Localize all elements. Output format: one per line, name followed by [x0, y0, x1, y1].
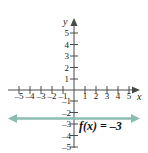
y-tick-label: –5 [62, 143, 71, 152]
function-equation-label: f(x) = –3 [79, 120, 122, 132]
line-left-arrow-icon [8, 114, 17, 123]
math-figure: –5 –4 –3 –2 –1 1 2 3 4 5 5 4 3 2 1 –1 –2… [0, 0, 148, 153]
y-axis-label: y [63, 17, 67, 27]
x-tick-label: –2 [48, 92, 57, 101]
y-tick-label: –1 [62, 97, 71, 106]
y-tick-label: 2 [65, 63, 70, 72]
x-tick-label: 5 [127, 92, 132, 101]
x-tick-label: 3 [105, 92, 110, 101]
y-axis-arrow-icon [70, 18, 77, 26]
x-axis-label: x [137, 92, 141, 102]
y-tick-label: 5 [65, 29, 70, 38]
y-tick-label: –2 [62, 108, 71, 117]
x-tick-label: 4 [116, 92, 121, 101]
x-tick-label: –3 [37, 92, 46, 101]
y-tick-label: 1 [65, 75, 70, 84]
y-tick-label: –4 [62, 131, 71, 140]
x-tick-label: –4 [26, 92, 35, 101]
x-tick-label: –5 [15, 92, 24, 101]
y-axis [70, 18, 77, 148]
y-tick-label: 3 [65, 52, 70, 61]
y-tick-label: –3 [62, 120, 71, 129]
line-right-arrow-icon [131, 114, 140, 123]
coordinate-plane-svg [0, 0, 148, 153]
x-tick-label: 2 [94, 92, 99, 101]
y-tick-label: 4 [65, 40, 70, 49]
x-tick-label: 1 [83, 92, 88, 101]
